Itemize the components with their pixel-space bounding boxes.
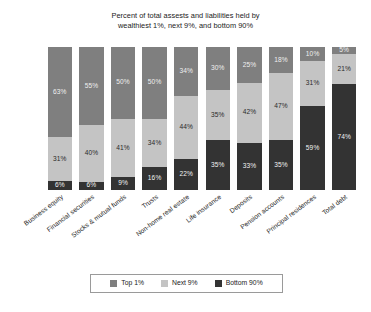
bar-segment-value-label: 35% <box>211 112 225 119</box>
bar-segment[interactable]: 18% <box>269 47 294 73</box>
bar-segment[interactable]: 42% <box>237 83 262 143</box>
bar-segment[interactable]: 41% <box>111 119 136 178</box>
legend-entry[interactable]: Top 1% <box>110 280 144 287</box>
bar-segment-value-label: 34% <box>179 68 193 75</box>
bar-segment[interactable]: 21% <box>332 54 357 84</box>
bar-segment-value-label: 47% <box>274 103 288 110</box>
legend-label: Top 1% <box>121 280 144 287</box>
legend-label: Bottom 90% <box>226 280 263 287</box>
chart-title: Percent of total assests and liabilities… <box>0 11 371 31</box>
chart-title-line-1: Percent of total assests and liabilities… <box>0 11 371 21</box>
bar-group[interactable]: 30%35%35% <box>206 47 231 190</box>
bar-segment[interactable]: 31% <box>300 61 325 105</box>
bar-group[interactable]: 5%21%74% <box>332 47 357 190</box>
bar-group[interactable]: 34%44%22% <box>174 47 199 190</box>
bar-segment-value-label: 22% <box>179 171 193 178</box>
bar-segment-value-label: 30% <box>211 65 225 72</box>
bar-group[interactable]: 25%42%33% <box>237 47 262 190</box>
x-axis-label-business-equity: Business equity <box>0 193 65 296</box>
bar-segment[interactable]: 9% <box>111 177 136 190</box>
bar-segment[interactable]: 10% <box>300 47 325 61</box>
bar-segment[interactable]: 55% <box>79 47 104 125</box>
bar-segment[interactable]: 6% <box>79 182 104 191</box>
chart-legend: Top 1%Next 9%Bottom 90% <box>90 274 283 293</box>
bar-segment[interactable]: 34% <box>174 47 199 96</box>
legend-entry[interactable]: Next 9% <box>161 280 198 287</box>
bar-segment-value-label: 34% <box>148 140 162 147</box>
bar-segment[interactable]: 22% <box>174 159 199 190</box>
legend-swatch-icon <box>161 280 168 287</box>
bar-segment-value-label: 31% <box>53 156 67 163</box>
x-axis-label-financial-securities: Financial securities <box>0 193 96 296</box>
bar-segment-value-label: 35% <box>211 162 225 169</box>
bar-segment[interactable]: 35% <box>206 90 231 140</box>
bar-group[interactable]: 50%34%16% <box>142 47 167 190</box>
plot-area: 63%31%6%55%40%6%50%41%9%50%34%16%34%44%2… <box>44 47 360 190</box>
bar-segment-value-label: 40% <box>85 150 99 157</box>
bar-segment[interactable]: 25% <box>237 47 262 83</box>
bar-segment[interactable]: 35% <box>269 140 294 190</box>
bar-segment-value-label: 55% <box>85 83 99 90</box>
bar-group[interactable]: 50%41%9% <box>111 47 136 190</box>
legend-swatch-icon <box>110 280 117 287</box>
chart-figure: Percent of total assests and liabilities… <box>0 0 371 312</box>
bar-segment[interactable]: 30% <box>206 47 231 90</box>
bar-segment[interactable]: 33% <box>237 143 262 190</box>
bar-segment-value-label: 6% <box>87 182 97 189</box>
bar-segment[interactable]: 74% <box>332 84 357 190</box>
bar-segment[interactable]: 34% <box>142 119 167 168</box>
bar-segment[interactable]: 5% <box>332 47 357 54</box>
bar-segment-value-label: 59% <box>306 145 320 152</box>
bar-segment[interactable]: 31% <box>48 137 73 181</box>
bar-segment-value-label: 25% <box>243 62 257 69</box>
bar-segment[interactable]: 44% <box>174 96 199 159</box>
bar-segment-value-label: 63% <box>53 89 67 96</box>
legend-entry[interactable]: Bottom 90% <box>215 280 263 287</box>
bar-segment[interactable]: 63% <box>48 47 73 137</box>
bar-segment[interactable]: 40% <box>79 125 104 182</box>
bar-segment-value-label: 31% <box>306 80 320 87</box>
bar-segment-value-label: 6% <box>55 182 65 189</box>
legend-swatch-icon <box>215 280 222 287</box>
bar-segment-value-label: 16% <box>148 175 162 182</box>
bar-segment[interactable]: 50% <box>142 47 167 119</box>
bar-segment-value-label: 35% <box>274 162 288 169</box>
bar-segment-value-label: 33% <box>243 163 257 170</box>
bar-segment-value-label: 50% <box>148 79 162 86</box>
bar-segment[interactable]: 47% <box>269 73 294 140</box>
bar-group[interactable]: 63%31%6% <box>48 47 73 190</box>
bar-group[interactable]: 55%40%6% <box>79 47 104 190</box>
bar-segment[interactable]: 35% <box>206 140 231 190</box>
bar-segment[interactable]: 6% <box>48 181 73 190</box>
bar-group[interactable]: 18%47%35% <box>269 47 294 190</box>
bar-segment-value-label: 21% <box>337 66 351 73</box>
bar-group[interactable]: 10%31%59% <box>300 47 325 190</box>
bar-segment-value-label: 10% <box>306 51 320 58</box>
bar-segment-value-label: 50% <box>116 79 130 86</box>
chart-title-line-2: wealthiest 1%, next 9%, and bottom 90% <box>0 21 371 31</box>
bar-segment-value-label: 42% <box>243 109 257 116</box>
bar-segment[interactable]: 50% <box>111 47 136 119</box>
bar-segment[interactable]: 16% <box>142 167 167 190</box>
bar-segment-value-label: 9% <box>118 180 128 187</box>
bar-segment-value-label: 18% <box>274 57 288 64</box>
bar-segment[interactable]: 59% <box>300 106 325 190</box>
bar-segment-value-label: 74% <box>337 134 351 141</box>
legend-label: Next 9% <box>172 280 198 287</box>
bar-segment-value-label: 41% <box>116 145 130 152</box>
bar-segment-value-label: 5% <box>339 47 349 54</box>
bar-segment-value-label: 44% <box>179 124 193 131</box>
